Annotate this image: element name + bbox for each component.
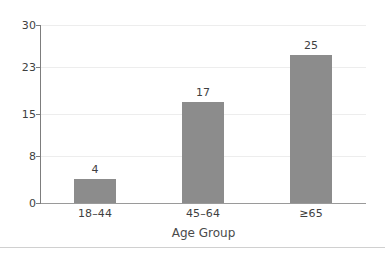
x-axis-line: [41, 203, 366, 204]
x-tick-label-45-64: 45–64: [149, 207, 257, 220]
y-tick-label-8: 8: [2, 151, 36, 162]
bar-chart-figure: 4 17 25 30 23 15 8 0 18–44 45–64 ≥65 Age…: [0, 0, 385, 259]
bar-value-65-plus: 25: [290, 40, 332, 51]
footer-divider: [0, 247, 385, 248]
bar-45-64[interactable]: [182, 102, 224, 203]
y-tick-label-0: 0: [2, 198, 36, 209]
y-tick-label-23: 23: [2, 62, 36, 73]
y-tick-label-15: 15: [2, 109, 36, 120]
bar-group-2: 25: [257, 25, 365, 203]
plot-area: 4 17 25: [41, 25, 366, 203]
y-tick-mark-0: [36, 203, 41, 204]
y-tick-mark-23: [36, 67, 41, 68]
bar-group-1: 17: [149, 25, 257, 203]
bar-value-18-44: 4: [74, 164, 116, 175]
y-tick-label-30: 30: [2, 20, 36, 31]
bar-value-45-64: 17: [182, 87, 224, 98]
y-tick-mark-15: [36, 114, 41, 115]
bar-18-44[interactable]: [74, 179, 116, 203]
x-axis-title: Age Group: [41, 226, 366, 240]
y-tick-mark-30: [36, 25, 41, 26]
bar-group-0: 4: [41, 25, 149, 203]
x-tick-label-18-44: 18–44: [41, 207, 149, 220]
y-tick-mark-8: [36, 156, 41, 157]
y-axis-tick-labels: 30 23 15 8 0: [0, 0, 36, 259]
x-tick-label-65-plus: ≥65: [257, 207, 365, 220]
bar-65-plus[interactable]: [290, 55, 332, 203]
